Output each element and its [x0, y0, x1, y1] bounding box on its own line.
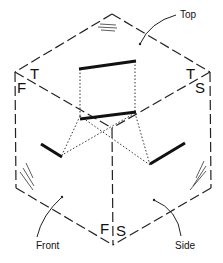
cube-outline [15, 14, 211, 245]
label-side: Side [175, 240, 195, 251]
label-top: Top [180, 9, 196, 20]
bold-edges [41, 61, 185, 164]
corner-letter-bottom-s: S [116, 222, 126, 239]
label-front: Front [36, 240, 59, 251]
leader-arrows [37, 15, 181, 237]
corner-letter-bottom-f: F [100, 220, 109, 237]
corner-letter-right-t: T [186, 65, 195, 82]
corner-letter-left-t: T [30, 65, 39, 82]
corner-hatches [20, 24, 206, 190]
corner-letter-right-s: S [195, 79, 205, 96]
corner-letter-left-f: F [17, 79, 26, 96]
isometric-cube-diagram [0, 0, 223, 263]
projection-lines [62, 61, 150, 165]
